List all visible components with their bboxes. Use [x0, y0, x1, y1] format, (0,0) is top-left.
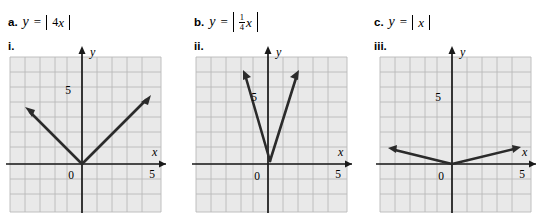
- graph-i: y x 5 5 0: [0, 0, 182, 223]
- x-tick-label-5: 5: [519, 168, 525, 180]
- panel-c: c. y = x iii.: [366, 0, 545, 223]
- panel-b: b. y = 1 4 x ii.: [186, 0, 368, 223]
- grid-background: [196, 57, 347, 212]
- graph-iii: y x 5 5 0: [366, 0, 545, 223]
- y-tick-label-5: 5: [65, 84, 71, 96]
- origin-label: 0: [438, 170, 444, 182]
- origin-label: 0: [254, 170, 260, 182]
- x-axis-label: x: [337, 145, 344, 159]
- x-axis-arrowhead: [345, 161, 352, 168]
- x-axis-arrowhead: [529, 161, 536, 168]
- y-axis-arrowhead: [265, 46, 272, 54]
- y-tick-label-5: 5: [435, 91, 441, 103]
- origin-label: 0: [68, 169, 74, 181]
- panel-a: a. y = 4x i.: [0, 0, 182, 223]
- x-tick-label-5: 5: [335, 168, 341, 180]
- x-tick-label-5: 5: [149, 168, 155, 180]
- x-axis-label: x: [151, 145, 158, 159]
- x-axis-label: x: [521, 145, 528, 159]
- graph-ii: y x 5 5 0: [186, 0, 368, 223]
- y-axis-label: y: [459, 45, 466, 59]
- y-tick-label-5: 5: [251, 91, 257, 103]
- grid-background: [380, 57, 531, 212]
- y-axis-arrowhead: [79, 46, 86, 54]
- y-axis-label: y: [89, 45, 96, 59]
- x-axis-arrowhead: [159, 161, 166, 168]
- grid-background: [10, 57, 161, 212]
- y-axis-label: y: [275, 45, 282, 59]
- y-axis-arrowhead: [449, 46, 456, 54]
